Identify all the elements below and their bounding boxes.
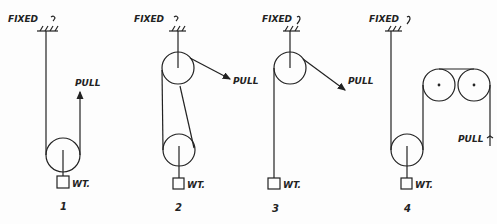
fixed-anchor-icon — [37, 16, 58, 31]
fixed-anchor-icon — [169, 16, 186, 31]
fixed-label: FIXED — [8, 14, 39, 24]
fixed-label: FIXED — [262, 14, 293, 24]
diagram-1: FIXED PULL WT. 1 — [8, 14, 101, 212]
fixed-label: FIXED — [369, 14, 400, 24]
diagram-number: 3 — [272, 203, 279, 214]
diagram-number: 4 — [403, 203, 411, 214]
fixed-label: FIXED — [134, 14, 165, 24]
diagram-4: FIXED PULL WT. 4 — [369, 14, 493, 214]
diagram-number: 2 — [175, 202, 182, 213]
weight-box — [57, 176, 69, 188]
weight-box — [401, 178, 412, 189]
weight-box — [173, 178, 184, 189]
diagram-3: FIXED PULL WT. 3 — [262, 14, 374, 214]
pull-label: PULL — [458, 134, 484, 144]
pull-label: PULL — [348, 76, 374, 86]
weight-box — [268, 178, 280, 189]
diagram-number: 1 — [60, 201, 67, 212]
pull-rope-arrow — [303, 59, 345, 90]
weight-label: WT. — [72, 179, 90, 189]
weight-label: WT. — [283, 180, 301, 190]
pulley-systems-figure: FIXED PULL WT. 1 FIXED PULL WT. 2 — [0, 0, 497, 224]
diagram-2: FIXED PULL WT. 2 — [134, 14, 259, 213]
pull-label: PULL — [233, 76, 259, 86]
pull-label: PULL — [75, 78, 101, 88]
weight-label: WT. — [415, 180, 433, 190]
weight-label: WT. — [187, 180, 205, 190]
pull-rope-arrow — [190, 58, 230, 79]
